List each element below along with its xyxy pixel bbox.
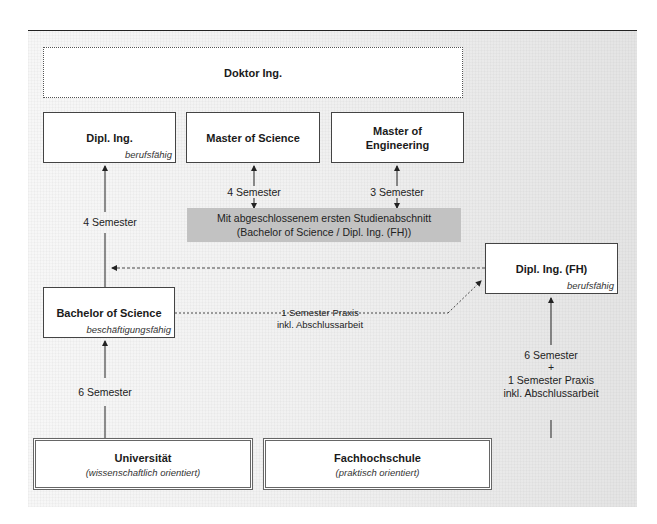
master-of-science-title: Master of Science (206, 131, 300, 145)
dipl-ing-fh-box: Dipl. Ing. (FH) berufsfähig (485, 243, 618, 294)
label-fh-to-diplom-fh-line3: inkl. Abschlussarbeit (491, 387, 611, 400)
master-of-engineering-title-line2: Engineering (366, 138, 430, 152)
universitaet-subtitle: (wissenschaftlich orientiert) (86, 467, 201, 478)
dipl-ing-fh-subtitle: berufsfähig (567, 280, 614, 291)
dipl-ing-box: Dipl. Ing. berufsfähig (43, 112, 176, 163)
prerequisite-band: Mit abgeschlossenem ersten Studienabschn… (187, 208, 461, 242)
doktor-ing-title: Doktor Ing. (224, 66, 282, 80)
label-band-to-master-engineering: 3 Semester (367, 186, 427, 199)
master-of-engineering-box: Master of Engineering (331, 112, 464, 163)
label-uni-to-bachelor: 6 Semester (75, 386, 135, 399)
label-band-to-master-science: 4 Semester (224, 186, 284, 199)
bachelor-subtitle: beschäftigungsfähig (86, 324, 171, 335)
fachhochschule-box: Fachhochschule (praktisch orientiert) (263, 438, 492, 490)
dipl-ing-fh-title: Dipl. Ing. (FH) (516, 262, 587, 276)
fachhochschule-subtitle: (praktisch orientiert) (336, 467, 420, 478)
label-bachelor-to-diplom: 4 Semester (80, 216, 140, 229)
bachelor-title: Bachelor of Science (56, 306, 161, 320)
label-bachelor-to-fh-line2: inkl. Abschlussarbeit (260, 318, 380, 331)
fachhochschule-title: Fachhochschule (334, 451, 421, 465)
label-fh-to-diplom-fh-plus: + (511, 361, 591, 374)
dipl-ing-title: Dipl. Ing. (86, 131, 132, 145)
master-of-engineering-title-line1: Master of (373, 124, 422, 138)
bachelor-of-science-box: Bachelor of Science beschäftigungsfähig (43, 287, 175, 338)
universitaet-title: Universität (115, 451, 172, 465)
master-of-science-box: Master of Science (186, 112, 320, 163)
dipl-ing-subtitle: berufsfähig (125, 149, 172, 160)
label-fh-to-diplom-fh-line2: 1 Semester Praxis (491, 374, 611, 387)
doktor-ing-box: Doktor Ing. (43, 47, 463, 98)
prerequisite-line2: (Bachelor of Science / Dipl. Ing. (FH)) (187, 225, 461, 239)
prerequisite-line1: Mit abgeschlossenem ersten Studienabschn… (187, 211, 461, 225)
universitaet-box: Universität (wissenschaftlich orientiert… (33, 438, 253, 490)
